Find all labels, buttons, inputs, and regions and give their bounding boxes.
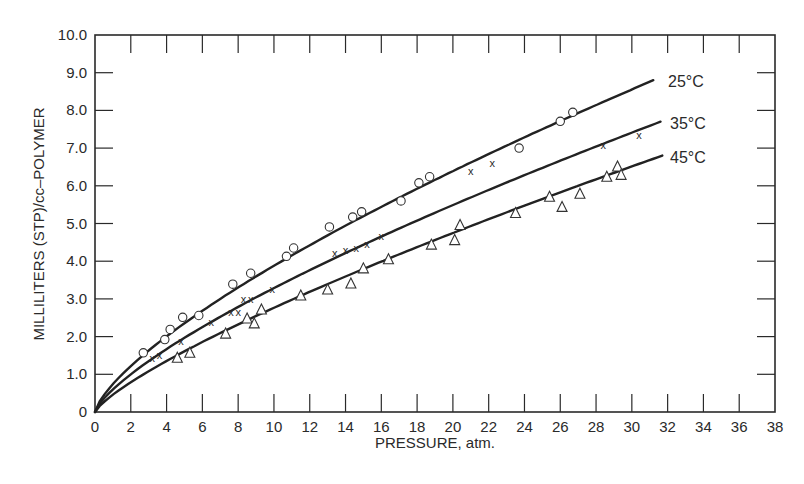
data-point-circle [569,108,577,116]
data-point-circle [282,252,290,260]
data-point-circle [178,313,186,321]
series-label-35c: 35°C [670,115,706,132]
y-tick-label: 9.0 [66,64,87,81]
data-point-circle [556,117,564,125]
x-tick-label: 26 [552,418,569,435]
x-tick-label: 28 [588,418,605,435]
x-tick-label: 30 [623,418,640,435]
axis-ticks [95,35,775,412]
data-point-circle [325,223,333,231]
x-tick-label: 24 [516,418,533,435]
data-point-triangle [346,278,356,288]
data-point-x: x [379,230,385,242]
data-point-circle [289,244,297,252]
curve-35c [95,122,661,412]
data-point-x: x [241,293,247,305]
x-tick-label: 0 [91,418,99,435]
data-point-circle [415,179,423,187]
data-point-triangle [455,220,465,230]
data-point-circle [515,144,523,152]
data-point-x: x [209,316,215,328]
x-tick-label: 34 [695,418,712,435]
data-points: xxxxxxxxxxxxxxxxxx [139,108,642,364]
x-tick-label: 18 [409,418,426,435]
data-point-circle [195,311,203,319]
data-point-x: x [269,283,275,295]
y-tick-label: 3.0 [66,290,87,307]
x-tick-label: 32 [659,418,676,435]
data-point-x: x [490,157,496,169]
data-point-x: x [600,139,606,151]
data-point-x: x [178,335,184,347]
data-point-x: x [228,306,234,318]
series-label-25c: 25°C [668,73,704,90]
data-point-x: x [157,349,163,361]
x-tick-label: 16 [373,418,390,435]
x-axis-title: PRESSURE, atm. [375,434,495,451]
data-point-circle [161,335,169,343]
x-tick-label: 22 [480,418,497,435]
series-label-45c: 45°C [670,149,706,166]
y-axis-title: MILLILITERS (STP)/cc–POLYMER [30,107,47,340]
sorption-isotherm-chart: 0246810121416182022242628303234363801.02… [0,0,804,484]
x-tick-label: 4 [162,418,170,435]
x-tick-label: 36 [731,418,748,435]
data-point-circle [397,197,405,205]
x-tick-label: 2 [127,418,135,435]
data-point-triangle [383,254,393,264]
data-point-x: x [354,242,360,254]
data-point-x: x [332,247,338,259]
data-point-x: x [248,293,254,305]
x-tick-label: 6 [198,418,206,435]
data-point-triangle [450,235,460,245]
y-tick-label: 8.0 [66,101,87,118]
x-tick-label: 8 [234,418,242,435]
y-tick-label: 0 [79,403,87,420]
y-tick-label: 5.0 [66,215,87,232]
data-point-triangle [557,201,567,211]
x-tick-label: 38 [767,418,784,435]
y-tick-label: 7.0 [66,139,87,156]
data-point-triangle [185,347,195,357]
data-point-circle [246,269,254,277]
x-tick-label: 10 [266,418,283,435]
data-point-circle [229,280,237,288]
x-tick-label: 20 [445,418,462,435]
plot-frame [95,35,775,412]
data-point-x: x [343,244,349,256]
data-point-x: x [150,352,156,364]
y-tick-label: 1.0 [66,365,87,382]
data-point-circle [139,349,147,357]
data-point-x: x [468,165,474,177]
data-point-x: x [636,129,642,141]
x-tick-label: 14 [337,418,354,435]
data-point-x: x [235,306,241,318]
y-tick-label: 4.0 [66,252,87,269]
data-point-circle [357,208,365,216]
y-tick-label: 10.0 [58,26,87,43]
data-point-circle [348,213,356,221]
data-point-triangle [575,188,585,198]
y-tick-label: 6.0 [66,177,87,194]
data-point-circle [425,173,433,181]
data-point-circle [166,325,174,333]
y-tick-label: 2.0 [66,328,87,345]
x-tick-label: 12 [301,418,318,435]
data-point-x: x [364,238,370,250]
data-point-triangle [256,304,266,314]
